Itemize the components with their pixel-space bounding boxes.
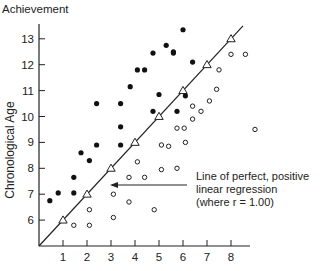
filled-point-icon (142, 67, 147, 72)
filled-point-icon (135, 67, 140, 72)
filled-point-icon (118, 142, 123, 147)
y-tick-label: 9 (28, 136, 34, 148)
open-point-icon (166, 144, 170, 148)
y-tick-label: 6 (28, 214, 34, 226)
y-tick-label: 7 (28, 188, 34, 200)
x-tick-label: 8 (228, 251, 234, 263)
open-point-icon (207, 99, 211, 103)
y-tick-label: 10 (21, 111, 34, 123)
y-tick-label: 12 (21, 59, 34, 71)
filled-point-icon (71, 190, 76, 195)
open-point-icon (190, 117, 194, 121)
filled-point-icon (94, 101, 99, 106)
regression-annotation: Line of perfect, positive linear regress… (110, 170, 309, 208)
open-point-icon (152, 208, 156, 212)
open-point-icon (243, 52, 247, 56)
filled-point-icon (183, 93, 188, 98)
x-tick-label: 6 (180, 251, 186, 263)
arrow-head-icon (110, 182, 118, 188)
open-point-icon (111, 192, 115, 196)
open-point-icon (214, 87, 218, 91)
filled-point-icon (78, 150, 83, 155)
annotation-line-2: linear regression (196, 183, 277, 195)
open-point-icon (190, 104, 194, 108)
filled-point-icon (171, 49, 176, 54)
x-axis-title: Achievement (2, 3, 69, 15)
open-point-icon (135, 160, 139, 164)
y-tick-label: 8 (28, 162, 34, 174)
filled-point-icon (87, 158, 92, 163)
filled-point-icon (56, 190, 61, 195)
filled-point-icon (180, 27, 185, 32)
filled-point-icon (190, 60, 195, 65)
open-point-icon (199, 109, 203, 113)
x-tick-label: 4 (132, 251, 139, 263)
open-point-icon (159, 167, 163, 171)
filled-point-icon (118, 101, 123, 106)
open-point-icon (72, 223, 76, 227)
filled-point-icon (156, 92, 161, 97)
scatter-chart: Achievement Chronological Age 1234567867… (0, 0, 330, 271)
chart-canvas: Achievement Chronological Age 1234567867… (0, 0, 330, 271)
open-point-icon (142, 175, 146, 179)
filled-point-icon (118, 124, 123, 129)
filled-point-icon (150, 109, 155, 114)
filled-point-icon (71, 175, 76, 180)
open-point-icon (127, 200, 131, 204)
x-tick-label: 5 (156, 251, 162, 263)
open-point-icon (111, 215, 115, 219)
filled-point-icon (150, 50, 155, 55)
regression-line (39, 26, 243, 246)
filled-point-icon (164, 43, 169, 48)
x-tick-label: 2 (84, 251, 90, 263)
open-point-icon (175, 166, 179, 170)
y-tick-label: 13 (21, 33, 34, 45)
open-point-icon (127, 175, 131, 179)
open-point-icon (159, 143, 163, 147)
x-tick-label: 3 (108, 251, 114, 263)
filled-point-icon (47, 198, 52, 203)
y-axis-title: Chronological Age (3, 101, 17, 199)
filled-point-icon (94, 142, 99, 147)
open-point-icon (253, 127, 257, 131)
annotation-line-1: Line of perfect, positive (196, 170, 309, 182)
open-point-icon (182, 126, 186, 130)
open-point-icon (183, 140, 187, 144)
annotation-line-3: (where r = 1.00) (196, 196, 274, 208)
x-tick-label: 1 (60, 251, 66, 263)
x-tick-label: 7 (204, 251, 210, 263)
open-point-icon (217, 68, 221, 72)
regression-line-path (39, 26, 243, 246)
open-point-icon (87, 208, 91, 212)
open-point-icon (229, 52, 233, 56)
y-tick-label: 11 (22, 85, 34, 97)
open-point-icon (175, 126, 179, 130)
open-point-icon (87, 223, 91, 227)
filled-point-icon (174, 109, 179, 114)
filled-point-icon (128, 84, 133, 89)
